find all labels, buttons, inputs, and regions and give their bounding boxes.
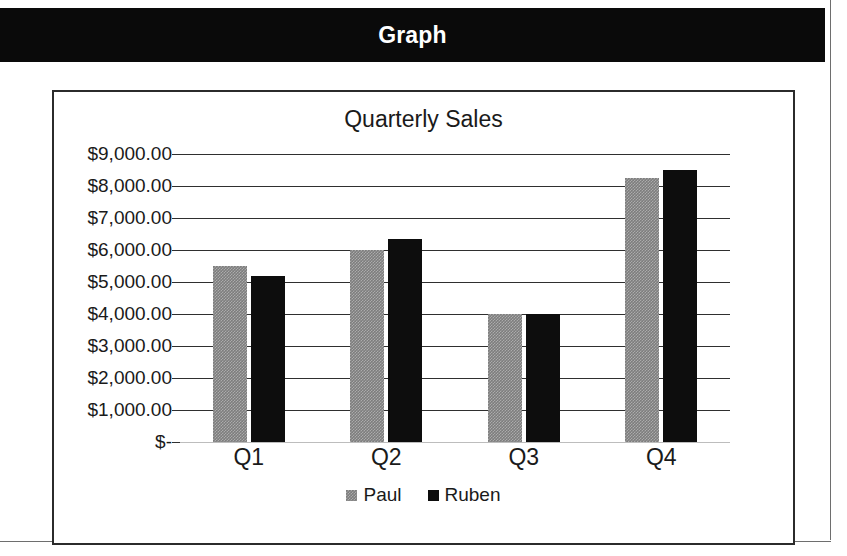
y-tick-label: $1,000.00 (87, 399, 172, 421)
chart-container: Quarterly Sales $9,000.00$8,000.00$7,000… (52, 90, 795, 545)
legend-label: Ruben (445, 484, 501, 506)
bar-group (455, 154, 593, 442)
gridline (180, 442, 730, 443)
y-tick-mark (172, 282, 180, 283)
bar-q3-ruben[interactable] (526, 314, 560, 442)
y-tick-mark (172, 218, 180, 219)
legend-swatch-icon (428, 490, 439, 501)
y-tick-mark (172, 314, 180, 315)
y-tick-mark (172, 346, 180, 347)
y-tick-mark (172, 410, 180, 411)
y-tick-label: $4,000.00 (87, 303, 172, 325)
bar-group (593, 154, 731, 442)
y-tick-label: $8,000.00 (87, 175, 172, 197)
y-tick-label: $- (155, 431, 172, 453)
y-tick-label: $9,000.00 (87, 143, 172, 165)
legend-item-paul[interactable]: Paul (346, 484, 401, 506)
bar-q2-ruben[interactable] (388, 239, 422, 442)
bar-q2-paul[interactable] (350, 250, 384, 442)
x-tick-label: Q4 (646, 444, 677, 471)
y-tick-label: $6,000.00 (87, 239, 172, 261)
legend-item-ruben[interactable]: Ruben (428, 484, 501, 506)
y-tick-label: $3,000.00 (87, 335, 172, 357)
page-title: Graph (378, 22, 447, 49)
x-tick-label: Q3 (508, 444, 539, 471)
y-tick-label: $7,000.00 (87, 207, 172, 229)
legend-swatch-icon (346, 490, 357, 501)
y-tick-mark (172, 250, 180, 251)
page-frame-right-rule (830, 0, 831, 540)
plot-area: $9,000.00$8,000.00$7,000.00$6,000.00$5,0… (180, 154, 730, 442)
legend-label: Paul (363, 484, 401, 506)
chart-title: Quarterly Sales (54, 106, 793, 133)
bar-group (180, 154, 318, 442)
chart-legend: PaulRuben (54, 484, 793, 506)
header-bar: Graph (0, 8, 825, 62)
bar-q3-paul[interactable] (488, 314, 522, 442)
y-tick-mark (172, 378, 180, 379)
y-tick-label: $2,000.00 (87, 367, 172, 389)
x-tick-label: Q1 (233, 444, 264, 471)
y-tick-mark (172, 442, 180, 443)
y-tick-mark (172, 186, 180, 187)
y-tick-label: $5,000.00 (87, 271, 172, 293)
bars-layer (180, 154, 730, 442)
y-tick-mark (172, 154, 180, 155)
x-axis: Q1Q2Q3Q4 (180, 444, 730, 478)
bar-q4-paul[interactable] (625, 178, 659, 442)
x-tick-label: Q2 (371, 444, 402, 471)
bar-q1-paul[interactable] (213, 266, 247, 442)
bar-group (318, 154, 456, 442)
bar-q1-ruben[interactable] (251, 276, 285, 442)
bar-q4-ruben[interactable] (663, 170, 697, 442)
